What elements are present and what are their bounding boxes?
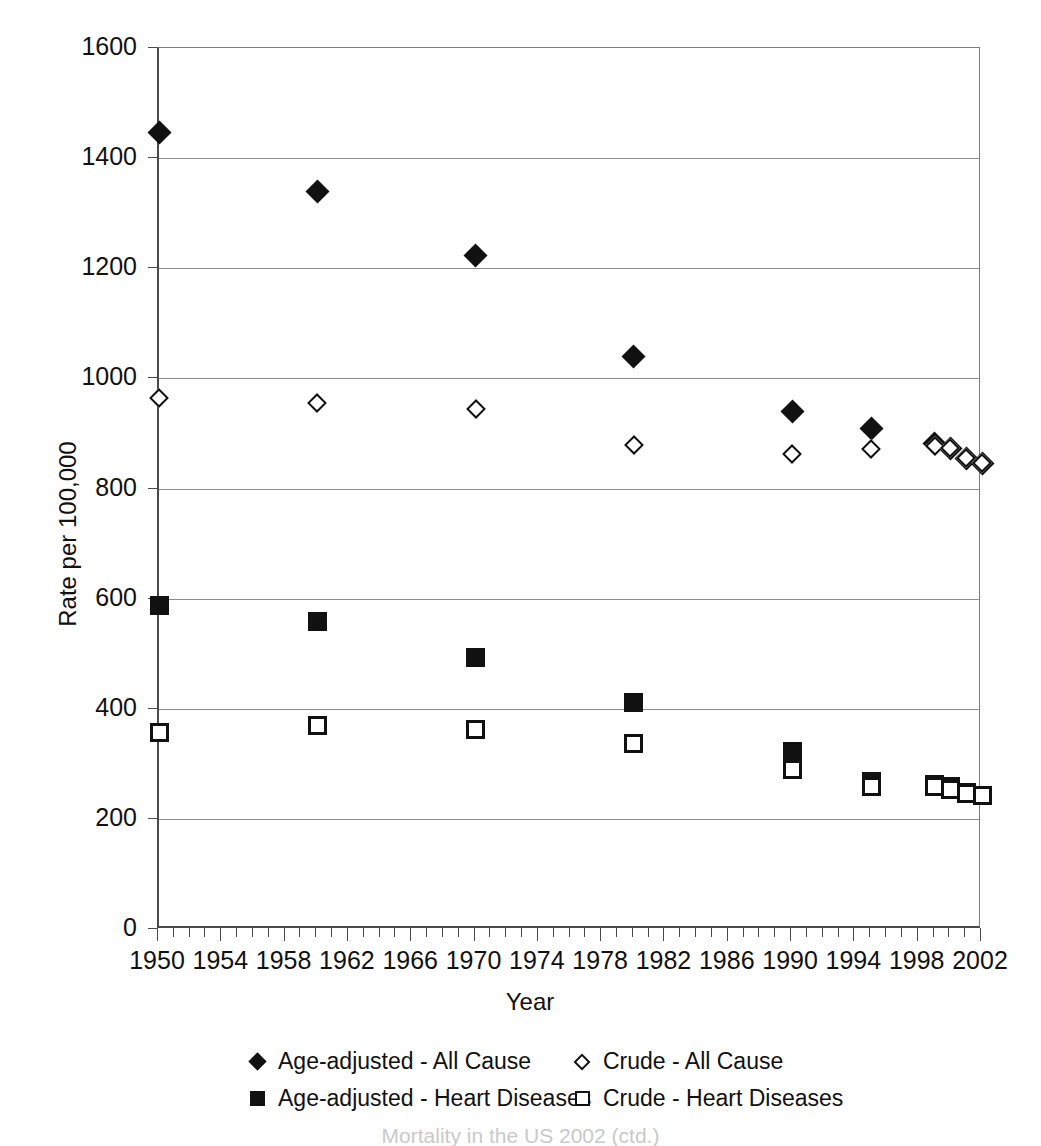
x-tick-mark-major: [917, 928, 918, 941]
data-point: [862, 777, 881, 796]
x-tick-mark-minor: [616, 928, 617, 937]
data-point: [859, 416, 883, 440]
x-tick-mark-minor: [822, 928, 823, 937]
legend-label: Crude - All Cause: [603, 1048, 783, 1075]
x-tick-mark-minor: [268, 928, 269, 937]
x-tick-label: 2002: [935, 948, 1025, 973]
x-tick-mark-major: [410, 928, 411, 941]
data-point: [308, 716, 327, 735]
x-tick-mark-major: [220, 928, 221, 941]
gridline: [159, 158, 979, 159]
x-tick-mark-minor: [711, 928, 712, 937]
x-tick-mark-minor: [806, 928, 807, 937]
x-tick-mark-minor: [838, 928, 839, 937]
gridline: [159, 819, 979, 820]
x-tick-mark-minor: [964, 928, 965, 937]
data-point: [780, 400, 804, 424]
square-open-icon: [570, 1091, 594, 1106]
x-tick-mark-major: [853, 928, 854, 941]
x-tick-mark-minor: [173, 928, 174, 937]
x-tick-mark-minor: [442, 928, 443, 937]
x-tick-mark-minor: [394, 928, 395, 937]
y-tick-label: 600: [27, 585, 137, 610]
y-tick-mark: [148, 267, 157, 268]
x-tick-mark-major: [663, 928, 664, 941]
data-point: [622, 345, 646, 369]
y-tick-mark: [148, 377, 157, 378]
x-tick-mark-minor: [521, 928, 522, 937]
mortality-rate-scatter-chart: Rate per 100,000 02004006008001000120014…: [0, 0, 1041, 1146]
data-point: [624, 693, 643, 712]
data-point: [307, 393, 327, 413]
x-tick-mark-minor: [679, 928, 680, 937]
y-tick-label: 200: [27, 805, 137, 830]
x-tick-mark-major: [790, 928, 791, 941]
x-tick-mark-minor: [458, 928, 459, 937]
x-axis-title: Year: [470, 988, 590, 1016]
gridline: [159, 489, 979, 490]
data-point: [466, 648, 485, 667]
data-point: [150, 723, 169, 742]
x-tick-mark-minor: [315, 928, 316, 937]
chart-legend: Age-adjusted - All CauseCrude - All Caus…: [245, 1043, 815, 1117]
x-tick-mark-minor: [505, 928, 506, 937]
x-tick-mark-minor: [584, 928, 585, 937]
legend-label: Crude - Heart Diseases: [603, 1085, 843, 1112]
x-tick-mark-major: [474, 928, 475, 941]
x-tick-mark-minor: [236, 928, 237, 937]
x-tick-mark-minor: [743, 928, 744, 937]
x-tick-mark-major: [600, 928, 601, 941]
y-tick-label: 1600: [27, 34, 137, 59]
gridline: [159, 268, 979, 269]
y-tick-label: 1200: [27, 254, 137, 279]
x-tick-mark-minor: [331, 928, 332, 937]
x-tick-mark-minor: [885, 928, 886, 937]
legend-entry[interactable]: Crude - Heart Diseases: [570, 1085, 815, 1112]
legend-label: Age-adjusted - All Cause: [278, 1048, 531, 1075]
y-tick-mark: [148, 708, 157, 709]
data-point: [464, 244, 488, 268]
legend-entry[interactable]: Age-adjusted - Heart Diseases: [245, 1085, 570, 1112]
legend-entry[interactable]: Crude - All Cause: [570, 1048, 815, 1075]
data-point: [305, 180, 329, 204]
gridline: [159, 599, 979, 600]
y-tick-label: 1400: [27, 144, 137, 169]
x-tick-mark-minor: [632, 928, 633, 937]
x-tick-mark-minor: [695, 928, 696, 937]
x-tick-mark-minor: [869, 928, 870, 937]
x-tick-mark-minor: [774, 928, 775, 937]
x-tick-mark-minor: [426, 928, 427, 937]
figure-caption: Mortality in the US 2002 (ctd.): [0, 1124, 1041, 1146]
x-tick-mark-minor: [901, 928, 902, 937]
x-tick-mark-minor: [758, 928, 759, 937]
x-tick-mark-major: [537, 928, 538, 941]
data-point: [466, 399, 486, 419]
x-tick-mark-major: [284, 928, 285, 941]
x-tick-mark-major: [980, 928, 981, 941]
y-tick-mark: [148, 488, 157, 489]
y-tick-mark: [148, 928, 157, 929]
x-tick-mark-minor: [204, 928, 205, 937]
legend-label: Age-adjusted - Heart Diseases: [278, 1085, 591, 1112]
legend-row: Age-adjusted - All CauseCrude - All Caus…: [245, 1043, 815, 1080]
data-point: [466, 720, 485, 739]
data-point: [150, 596, 169, 615]
legend-row: Age-adjusted - Heart DiseasesCrude - Hea…: [245, 1080, 815, 1117]
y-tick-label: 800: [27, 475, 137, 500]
data-point: [308, 612, 327, 631]
data-point: [861, 439, 881, 459]
x-tick-mark-minor: [299, 928, 300, 937]
y-tick-label: 1000: [27, 364, 137, 389]
x-tick-mark-minor: [948, 928, 949, 937]
x-tick-mark-minor: [379, 928, 380, 937]
x-tick-mark-minor: [648, 928, 649, 937]
x-tick-mark-major: [347, 928, 348, 941]
x-tick-mark-minor: [252, 928, 253, 937]
diamond-open-icon: [570, 1056, 594, 1068]
data-point: [783, 760, 802, 779]
x-tick-mark-major: [157, 928, 158, 941]
gridline: [159, 378, 979, 379]
data-point: [624, 734, 643, 753]
legend-entry[interactable]: Age-adjusted - All Cause: [245, 1048, 570, 1075]
y-tick-mark: [148, 818, 157, 819]
